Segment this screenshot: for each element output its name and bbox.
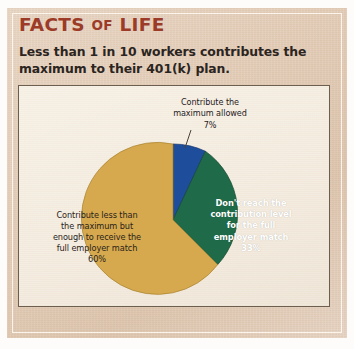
tan-value: 60% bbox=[27, 254, 167, 265]
callout-line-1: Contribute the bbox=[149, 97, 271, 108]
title-word-of: OF bbox=[92, 17, 113, 33]
chart-panel: Contribute the maximum allowed 7% Don't … bbox=[18, 85, 330, 307]
green-line-2: contribution level bbox=[195, 209, 307, 220]
slice-label-partial-contribution: Contribute less than the maximum but eno… bbox=[27, 210, 167, 265]
tan-line-1: Contribute less than bbox=[27, 210, 167, 221]
tan-line-4: full employer match bbox=[27, 243, 167, 254]
scanned-page: FACTS OF LIFE Less than 1 in 10 workers … bbox=[0, 0, 354, 349]
title-word-facts: FACTS bbox=[19, 14, 85, 35]
callout-value: 7% bbox=[149, 120, 271, 131]
callout-line-2: maximum allowed bbox=[149, 108, 271, 119]
title-word-life: LIFE bbox=[119, 14, 164, 35]
green-line-3: for the full bbox=[195, 220, 307, 231]
subtitle-text: Less than 1 in 10 workers contributes th… bbox=[19, 43, 331, 77]
tan-line-2: the maximum but bbox=[27, 221, 167, 232]
page-title: FACTS OF LIFE bbox=[19, 16, 319, 35]
callout-label-maximum-allowed: Contribute the maximum allowed 7% bbox=[149, 97, 271, 131]
tan-line-3: enough to receive the bbox=[27, 232, 167, 243]
green-value: 33% bbox=[195, 243, 307, 254]
green-line-1: Don't reach the bbox=[195, 198, 307, 209]
slice-label-below-full-match: Don't reach the contribution level for t… bbox=[195, 198, 307, 254]
green-line-4: employer match bbox=[195, 232, 307, 243]
